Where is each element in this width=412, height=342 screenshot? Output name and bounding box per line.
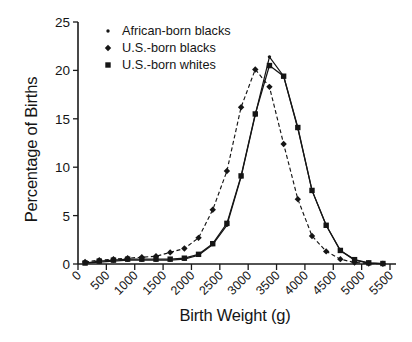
marker-square: [295, 125, 300, 130]
marker-square: [238, 173, 243, 178]
series-line: [85, 57, 383, 264]
marker-diamond: [280, 141, 286, 147]
marker-square: [210, 241, 215, 246]
marker-square: [182, 255, 187, 260]
marker-diamond: [337, 256, 343, 262]
x-tick-label: 4500: [310, 268, 340, 298]
marker-square: [267, 63, 272, 68]
x-axis-title-wrap: Birth Weight (g): [0, 306, 412, 325]
marker-diamond: [105, 45, 111, 51]
legend-label: U.S.-born whites: [122, 58, 216, 72]
series-line: [85, 69, 383, 263]
series-u-s-born-blacks: [82, 66, 386, 267]
legend-item-african-born-blacks: African-born blacks: [106, 24, 230, 38]
y-tick-label: 20: [55, 63, 70, 78]
marker-diamond: [266, 84, 272, 90]
chart-plot-area: 0510152025 05001000150020002500300035004…: [0, 0, 412, 342]
x-tick-label: 3500: [253, 268, 283, 298]
y-tick-label: 5: [62, 209, 70, 224]
marker-dot: [268, 55, 271, 58]
y-tick-label: 25: [55, 15, 70, 30]
marker-square: [97, 258, 102, 263]
marker-diamond: [224, 168, 230, 174]
marker-diamond: [167, 249, 173, 255]
birth-weight-distribution-chart: Percentage of Births 0510152025 05001000…: [0, 0, 412, 342]
y-tick-label: 0: [62, 257, 70, 272]
marker-square: [153, 256, 158, 261]
y-tick-label: 10: [55, 160, 70, 175]
marker-square: [196, 252, 201, 257]
y-tick-group: 0510152025: [55, 15, 78, 272]
data-series-group: [82, 55, 386, 267]
marker-dot: [106, 29, 109, 32]
legend-label: U.S.-born blacks: [122, 41, 216, 55]
x-tick-label: 1500: [140, 268, 170, 298]
x-tick-label: 3000: [225, 268, 255, 298]
marker-diamond: [238, 104, 244, 110]
x-tick-label: 5500: [367, 268, 397, 298]
x-tick-label: 2500: [196, 268, 226, 298]
chart-legend: African-born blacksU.S.-born blacksU.S.-…: [105, 24, 231, 72]
legend-label: African-born blacks: [122, 24, 231, 38]
x-tick-label: 500: [88, 268, 113, 293]
marker-square: [366, 260, 371, 265]
series-line: [85, 66, 383, 264]
x-tick-label: 1000: [111, 268, 141, 298]
marker-square: [380, 261, 385, 266]
marker-square: [309, 188, 314, 193]
y-axis-title: Percentage of Births: [22, 35, 41, 265]
marker-square: [338, 248, 343, 253]
marker-square: [167, 256, 172, 261]
x-tick-label: 0: [69, 268, 84, 283]
legend-item-u-s-born-whites: U.S.-born whites: [105, 58, 215, 72]
marker-square: [253, 111, 258, 116]
marker-square: [323, 223, 328, 228]
x-tick-label: 2000: [168, 268, 198, 298]
x-axis-title: Birth Weight (g): [121, 306, 290, 324]
marker-square: [105, 62, 110, 67]
marker-diamond: [295, 196, 301, 202]
marker-square: [224, 221, 229, 226]
marker-square: [139, 256, 144, 261]
x-tick-label: 5000: [338, 268, 368, 298]
series-u-s-born-whites: [82, 63, 385, 266]
legend-item-u-s-born-blacks: U.S.-born blacks: [105, 41, 216, 55]
y-tick-label: 15: [55, 112, 70, 127]
marker-square: [82, 260, 87, 265]
marker-square: [125, 256, 130, 261]
marker-square: [281, 74, 286, 79]
x-tick-label: 4000: [281, 268, 311, 298]
x-tick-group: 0500100015002000250030003500400045005000…: [69, 264, 396, 298]
marker-square: [352, 257, 357, 262]
marker-diamond: [181, 245, 187, 251]
marker-square: [111, 257, 116, 262]
series-african-born-blacks: [83, 55, 384, 265]
marker-diamond: [210, 207, 216, 213]
